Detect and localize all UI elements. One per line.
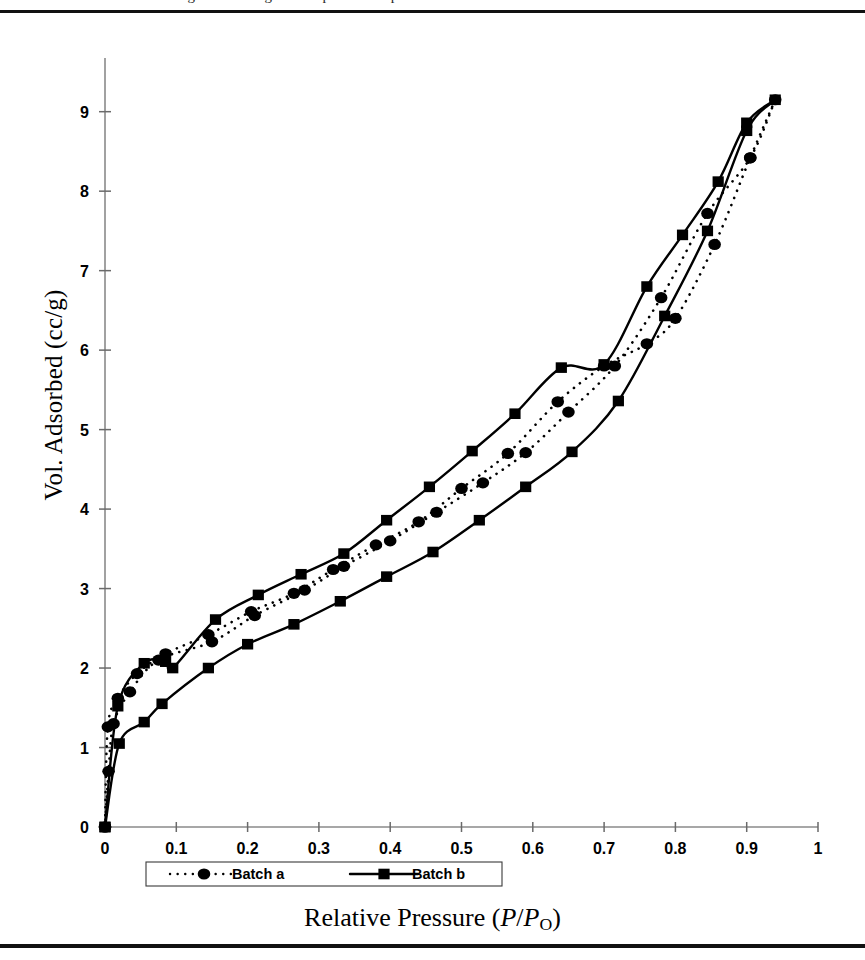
data-point-marker — [551, 396, 564, 407]
y-tick-label: 2 — [80, 660, 89, 677]
data-point-marker — [139, 717, 150, 728]
chart-legend: Batch aBatch b — [146, 862, 502, 886]
data-point-marker — [741, 118, 752, 129]
data-point-marker — [335, 596, 346, 607]
x-tick-label: 0.9 — [736, 840, 758, 857]
data-point-marker — [659, 311, 670, 322]
chart-figure: 00.10.20.30.40.50.60.70.80.910123456789 … — [0, 16, 865, 940]
cropped-caption-text: Figure 3. Nitrogen adsorption-desorption… — [175, 0, 487, 4]
data-point-marker — [744, 152, 757, 163]
data-point-marker — [210, 614, 221, 625]
y-tick-label: 3 — [80, 581, 89, 598]
data-point-marker — [202, 629, 215, 640]
y-tick-label: 1 — [80, 740, 89, 757]
y-tick-label: 5 — [80, 422, 89, 439]
cropped-caption-sliver: Figure 3. Nitrogen adsorption-desorption… — [0, 0, 865, 9]
data-point-marker — [124, 686, 137, 697]
data-point-marker — [467, 446, 478, 457]
data-point-marker — [655, 292, 668, 303]
x-tick-label: 0.6 — [522, 840, 544, 857]
data-point-marker — [502, 448, 515, 459]
legend-marker-circle-icon — [198, 868, 211, 879]
data-point-marker — [102, 766, 115, 777]
x-axis-title-prefix: Relative Pressure ( — [304, 903, 500, 932]
data-point-marker — [338, 561, 351, 572]
horizontal-rule-top — [0, 10, 865, 13]
data-point-marker — [295, 569, 306, 580]
data-point-marker — [701, 208, 714, 219]
x-tick-label: 0.5 — [450, 840, 472, 857]
data-point-marker — [338, 548, 349, 559]
data-point-marker — [430, 507, 443, 518]
x-axis-title-slash: / — [516, 903, 523, 932]
data-point-marker — [599, 359, 610, 370]
y-tick-label: 7 — [80, 263, 89, 280]
legend-label: Batch b — [412, 866, 465, 882]
x-axis-title-subscript: O — [539, 914, 552, 934]
y-tick-label: 6 — [80, 342, 89, 359]
data-point-marker — [677, 230, 688, 241]
data-point-marker — [288, 619, 299, 630]
horizontal-rule-bottom — [0, 944, 865, 948]
data-point-marker — [477, 477, 490, 488]
legend-label: Batch a — [232, 866, 285, 882]
data-point-marker — [613, 396, 624, 407]
data-point-marker — [641, 281, 652, 292]
data-point-marker — [139, 658, 150, 669]
data-point-marker — [562, 407, 575, 418]
data-point-marker — [424, 482, 435, 493]
data-point-marker — [455, 483, 468, 494]
chart-axes: 00.10.20.30.40.50.60.70.80.910123456789 — [80, 58, 822, 857]
y-tick-label: 4 — [80, 501, 89, 518]
data-point-marker — [556, 362, 567, 373]
chart-curves — [105, 100, 775, 827]
series-line-batch-b-adsorption — [105, 100, 775, 827]
data-point-marker — [298, 585, 311, 596]
data-point-marker — [427, 547, 438, 558]
data-point-marker — [384, 535, 397, 546]
y-tick-label: 0 — [80, 819, 89, 836]
data-point-marker — [156, 699, 167, 710]
data-point-marker — [160, 656, 171, 667]
data-point-marker — [114, 738, 125, 749]
data-point-marker — [519, 447, 532, 458]
data-point-marker — [520, 482, 531, 493]
data-point-marker — [641, 338, 654, 349]
data-point-marker — [412, 516, 425, 527]
x-axis-title-p2: P — [524, 903, 540, 932]
data-point-marker — [102, 721, 115, 732]
data-point-marker — [327, 564, 340, 575]
data-point-marker — [474, 515, 485, 526]
x-tick-label: 0.7 — [593, 840, 615, 857]
data-point-marker — [112, 701, 123, 712]
data-point-marker — [242, 639, 253, 650]
data-point-marker — [702, 226, 713, 237]
data-point-marker — [99, 822, 110, 833]
x-tick-label: 0.1 — [165, 840, 187, 857]
data-point-marker — [566, 447, 577, 458]
x-tick-label: 0 — [101, 840, 110, 857]
x-tick-label: 0.8 — [664, 840, 686, 857]
data-point-marker — [253, 590, 264, 601]
x-axis-title: Relative Pressure (P/PO) — [0, 903, 865, 935]
y-tick-label: 9 — [80, 104, 89, 121]
series-line-batch-a-adsorption — [105, 100, 775, 827]
data-point-marker — [245, 606, 258, 617]
series-line-batch-b-desorption — [105, 100, 775, 827]
x-tick-label: 1 — [814, 840, 823, 857]
x-tick-label: 0.4 — [379, 840, 401, 857]
data-point-marker — [381, 571, 392, 582]
data-point-marker — [381, 515, 392, 526]
chart-markers — [99, 94, 782, 832]
data-point-marker — [370, 539, 383, 550]
series-line-batch-a-desorption — [105, 100, 775, 827]
data-point-marker — [509, 408, 520, 419]
data-point-marker — [669, 313, 682, 324]
x-tick-label: 0.2 — [236, 840, 258, 857]
data-point-marker — [131, 668, 144, 679]
x-axis-title-suffix: ) — [552, 903, 561, 932]
data-point-marker — [708, 239, 721, 250]
legend-marker-square-icon — [378, 869, 389, 880]
figure-page: Figure 3. Nitrogen adsorption-desorption… — [0, 0, 865, 960]
y-tick-label: 8 — [80, 183, 89, 200]
